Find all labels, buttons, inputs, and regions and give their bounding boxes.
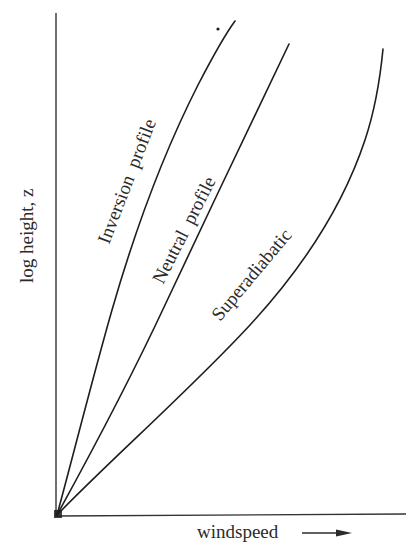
inversion-profile-curve [57,21,235,515]
neutral-profile-label: Neutral profile [148,173,220,287]
superadiabatic-label: Superadiabatic [207,225,296,325]
x-axis [55,514,406,516]
inversion-profile-label: Inversion profile [93,116,160,247]
superadiabatic-curve [57,49,383,515]
y-axis-label: log height, z [16,189,37,283]
stray-dot [216,27,219,30]
wind-profile-chart: Inversion profile Neutral profile Supera… [0,0,415,557]
x-axis-label: windspeed [197,521,279,542]
x-axis-arrow-icon [302,530,352,537]
